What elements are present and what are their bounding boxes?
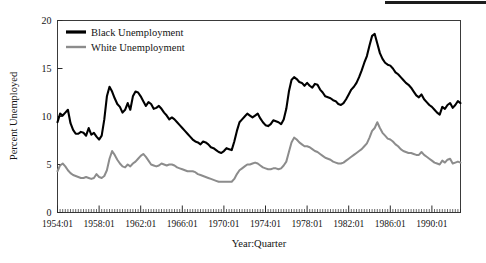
x-tick-label: 1974:01 [250,219,281,229]
x-tick-label: 1958:01 [84,219,115,229]
series-line-white-unemployment [58,122,461,182]
x-tick-label: 1978:01 [292,219,323,229]
x-tick-label: 1966:01 [167,219,198,229]
x-tick-label: 1986:01 [375,219,406,229]
x-tick-label: 1954:01 [42,219,73,229]
legend-label: White Unemployment [91,42,185,53]
x-axis-ticks: 1954:011958:011962:011966:011970:011974:… [42,206,461,229]
x-tick-label: 1970:01 [208,219,239,229]
series-layer [58,34,461,182]
y-tick-label: 15 [42,63,52,74]
x-tick-label: 1982:01 [333,219,364,229]
legend-label: Black Unemployment [91,27,184,38]
x-tick-label: 1962:01 [125,219,156,229]
x-axis-title: Year:Quarter [232,238,287,249]
y-tick-label: 20 [42,15,52,26]
y-tick-label: 0 [47,207,52,218]
x-tick-label: 1990:01 [416,219,447,229]
y-tick-label: 10 [42,111,52,122]
chart-legend: Black UnemploymentWhite Unemployment [66,27,185,53]
y-tick-label: 5 [47,159,52,170]
y-axis-title: Percent Unemployed [8,71,19,160]
chart-figure: 05101520 1954:011958:011962:011966:01197… [0,0,486,263]
unemployment-line-chart: 05101520 1954:011958:011962:011966:01197… [0,0,486,263]
